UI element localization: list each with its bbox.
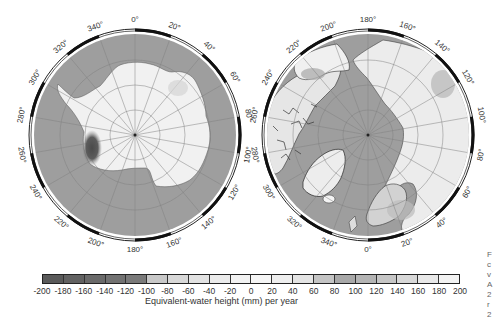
svg-text:60°: 60°	[460, 185, 474, 200]
colorbar-segment	[418, 275, 439, 283]
svg-text:40°: 40°	[434, 215, 449, 230]
svg-text:80°: 80°	[475, 148, 486, 161]
svg-text:40°: 40°	[202, 39, 217, 54]
svg-text:160°: 160°	[165, 236, 184, 250]
colorbar-segment	[85, 275, 106, 283]
svg-text:340°: 340°	[86, 20, 105, 34]
svg-text:260°: 260°	[16, 146, 28, 164]
colorbar-segment	[439, 275, 459, 283]
svg-text:280°: 280°	[249, 146, 261, 164]
svg-text:200°: 200°	[86, 236, 105, 250]
colorbar-segment	[231, 275, 252, 283]
tick-label: 40	[288, 286, 297, 296]
tick-label: 140	[390, 286, 404, 296]
colorbar	[42, 274, 460, 284]
tick-label: 160	[411, 286, 425, 296]
tick-label: -100	[138, 286, 155, 296]
colorbar-segment	[106, 275, 127, 283]
svg-text:340°: 340°	[319, 236, 338, 250]
colorbar-segment	[356, 275, 377, 283]
colorbar-segment	[189, 275, 210, 283]
svg-text:180°: 180°	[127, 245, 144, 254]
tick-label: -40	[203, 286, 215, 296]
tick-label: -200	[33, 286, 50, 296]
colorbar-segment	[272, 275, 293, 283]
arctic-map: 180°160°140°120°100°80°60°40°20°0°340°32…	[233, 0, 500, 270]
tick-label: 200	[453, 286, 467, 296]
svg-text:160°: 160°	[398, 20, 417, 34]
tick-label: 120	[369, 286, 383, 296]
tick-label: -180	[54, 286, 71, 296]
colorbar-segment	[293, 275, 314, 283]
svg-text:180°: 180°	[360, 15, 377, 24]
svg-text:300°: 300°	[27, 68, 43, 87]
tick-label: 0	[249, 286, 254, 296]
colorbar-title: Equivalent-water height (mm) per year	[145, 296, 298, 306]
colorbar-segment	[335, 275, 356, 283]
tick-label: 20	[267, 286, 276, 296]
svg-text:0°: 0°	[364, 245, 372, 254]
tick-label: 100	[348, 286, 362, 296]
svg-text:260°: 260°	[248, 106, 260, 124]
pole-marker	[367, 134, 370, 137]
svg-text:100°: 100°	[476, 106, 488, 124]
tick-label: -140	[96, 286, 113, 296]
colorbar-segment	[210, 275, 231, 283]
tick-label: 80	[330, 286, 339, 296]
svg-text:200°: 200°	[319, 20, 338, 34]
svg-text:280°: 280°	[15, 106, 27, 124]
svg-text:20°: 20°	[167, 20, 181, 33]
tick-label: -80	[161, 286, 173, 296]
svg-text:120°: 120°	[460, 68, 476, 87]
tick-label: 60	[309, 286, 318, 296]
svg-text:320°: 320°	[52, 38, 70, 56]
tick-label: -20	[224, 286, 236, 296]
colorbar-segment	[168, 275, 189, 283]
svg-text:0°: 0°	[131, 15, 139, 24]
tick-label: -60	[182, 286, 194, 296]
tick-label: -120	[117, 286, 134, 296]
fennoscandia-anomaly	[387, 200, 415, 220]
mass-loss-anomaly	[82, 130, 102, 166]
colorbar-segment	[314, 275, 335, 283]
colorbar-segment	[147, 275, 168, 283]
pole-marker	[134, 134, 137, 137]
svg-text:140°: 140°	[433, 38, 451, 56]
colorbar-segment	[397, 275, 418, 283]
antarctica-map: 0°20°40°60°80°100°120°140°160°180°200°22…	[0, 0, 270, 270]
tick-label: -160	[75, 286, 92, 296]
svg-text:220°: 220°	[285, 38, 303, 56]
cropped-caption-text: FcvA2r2	[487, 250, 492, 320]
colorbar-segment	[377, 275, 398, 283]
colorbar-segment	[43, 275, 64, 283]
colorbar-ticks: -200-180-160-140-120-100-80-60-40-200204…	[42, 286, 460, 296]
colorbar-segment	[64, 275, 85, 283]
minor-anomaly	[168, 80, 188, 96]
tick-label: 180	[432, 286, 446, 296]
colorbar-segment	[251, 275, 272, 283]
svg-text:240°: 240°	[260, 68, 276, 87]
colorbar-segment	[126, 275, 147, 283]
svg-text:20°: 20°	[400, 236, 414, 249]
